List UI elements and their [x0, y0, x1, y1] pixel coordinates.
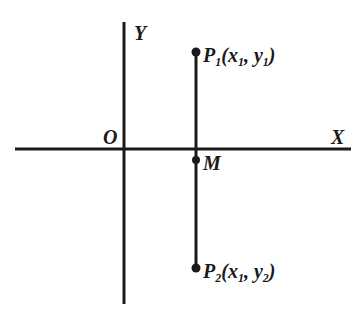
coordinate-diagram: Y X O P1(x1, y1) M P2(x1, y2): [0, 0, 351, 321]
p2-label: P2(x1, y2): [202, 260, 275, 285]
origin-label: O: [103, 126, 117, 148]
point-p1: [192, 48, 201, 57]
point-m: [192, 156, 200, 164]
m-label: M: [202, 152, 222, 174]
p1-label: P1(x1, y1): [202, 44, 275, 69]
x-axis-label: X: [330, 126, 345, 148]
y-axis-label: Y: [134, 22, 148, 44]
point-p2: [192, 264, 201, 273]
